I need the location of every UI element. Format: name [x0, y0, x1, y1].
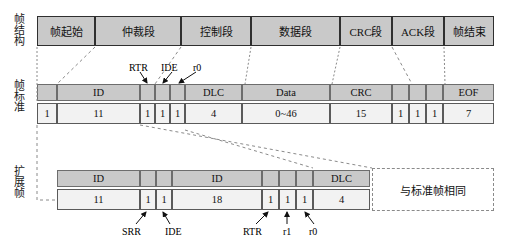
standard-field-band-ide [155, 84, 170, 101]
extended-bits-srr: 1 [140, 189, 156, 210]
leader-rtr-extended [256, 212, 268, 224]
annotation-rtr-standard: RTR [129, 62, 148, 73]
standard-bits-value: 1 [415, 108, 420, 119]
row-label-standard-frame-text: 帧标准 [11, 79, 25, 112]
standard-bits-r0: 1 [170, 103, 185, 124]
extended-field-band-r1 [279, 170, 296, 187]
row-label-standard-frame: 帧标准 [10, 79, 26, 116]
annotation-text: RTR [129, 62, 148, 73]
same-as-standard-frame-note: 与标准帧相同 [372, 168, 494, 211]
annotation-ide-extended: IDE [165, 226, 182, 237]
extended-field-band-id-high: ID [57, 170, 140, 187]
extended-field-band-dlc: DLC [313, 170, 370, 187]
extended-field-label: ID [211, 173, 222, 184]
standard-field-label: ID [93, 87, 104, 98]
extended-bits-r1: 1 [279, 189, 296, 210]
row-label-extended-frame: 扩展帧 [10, 165, 26, 202]
standard-bits-value: 1 [432, 108, 437, 119]
standard-bits-value: 1 [160, 108, 165, 119]
standard-bits-sof: 1 [37, 103, 57, 124]
guide-ack-start [392, 47, 412, 84]
extended-bits-id-low: 18 [172, 189, 262, 210]
leader-srr-extended [136, 212, 146, 224]
standard-bits-value: 4 [211, 108, 216, 119]
standard-bits-id: 11 [57, 103, 140, 124]
structure-segment-label: 帧结束 [453, 23, 486, 39]
standard-bits-dlc: 4 [185, 103, 242, 124]
annotation-text: r0 [309, 226, 317, 237]
annotation-r0-standard: r0 [193, 62, 201, 73]
extended-field-band-r0 [296, 170, 313, 187]
standard-bits-value: 1 [175, 108, 180, 119]
guide-expand-left [37, 125, 57, 200]
structure-segment-data: 数据段 [251, 16, 340, 46]
guide-expand-right [140, 125, 372, 168]
standard-field-band-crc-delim [426, 84, 443, 101]
structure-segment-label: 数据段 [279, 23, 312, 39]
extended-field-band-rtr [262, 170, 279, 187]
structure-segment-control: 控制段 [181, 16, 251, 46]
extended-bits-dlc: 4 [313, 189, 370, 210]
structure-segment-label: 仲裁段 [122, 23, 155, 39]
can-frame-diagram: 帧结构 帧标准 扩展帧 帧起始 仲裁段 控制段 数据段 CRC段 ACK段 帧结… [0, 0, 507, 249]
standard-bits-ack-delim: 1 [409, 103, 426, 124]
standard-bits-data: 0~46 [242, 103, 330, 124]
annotation-r0-extended: r0 [309, 226, 317, 237]
guide-eof-start [444, 47, 445, 84]
structure-segment-arbitration: 仲裁段 [95, 16, 181, 46]
extended-bits-value: 1 [302, 194, 307, 205]
extended-bits-value: 1 [145, 194, 150, 205]
standard-field-label: Data [276, 87, 296, 98]
annotation-text: IDE [161, 62, 178, 73]
extended-field-band-id-low: ID [172, 170, 262, 187]
standard-field-band-data: Data [242, 84, 330, 101]
standard-bits-ide: 1 [155, 103, 170, 124]
annotation-text: r0 [193, 62, 201, 73]
standard-bits-value: 1 [398, 108, 403, 119]
row-label-frame-structure: 帧结构 [10, 13, 26, 50]
annotation-text: RTR [243, 226, 262, 237]
annotation-ide-standard: IDE [161, 62, 178, 73]
extended-bits-value: 11 [93, 194, 103, 205]
annotation-text: r1 [283, 226, 291, 237]
annotation-text: SRR [122, 226, 141, 237]
structure-segment-crc: CRC段 [340, 16, 392, 46]
standard-field-band-ack-slot [392, 84, 409, 101]
leader-ide-extended [163, 212, 170, 224]
structure-segment-ack: ACK段 [392, 16, 444, 46]
standard-field-label: DLC [203, 87, 224, 98]
structure-segment-label: 控制段 [200, 23, 233, 39]
extended-field-band-ide [156, 170, 172, 187]
guide-expand-dlc [185, 130, 313, 168]
standard-field-band-dlc: DLC [185, 84, 242, 101]
structure-segment-label: CRC段 [349, 23, 382, 39]
guide-arbitration-start [57, 47, 95, 84]
extended-bits-rtr: 1 [262, 189, 279, 210]
extended-bits-value: 18 [212, 194, 223, 205]
standard-bits-value: 11 [93, 108, 103, 119]
standard-field-band-sof [37, 84, 57, 101]
standard-field-band-crc: CRC [330, 84, 392, 101]
standard-field-label: CRC [350, 87, 371, 98]
leader-rtr-standard [140, 72, 147, 83]
extended-bits-value: 1 [161, 194, 166, 205]
extended-bits-id-high: 11 [57, 189, 140, 210]
standard-field-band-rtr [140, 84, 155, 101]
standard-field-band-ack-delim [409, 84, 426, 101]
extended-field-label: ID [93, 173, 104, 184]
standard-bits-value: 15 [356, 108, 367, 119]
structure-segment-label: ACK段 [401, 23, 435, 39]
extended-field-label: DLC [331, 173, 352, 184]
extended-bits-ide: 1 [156, 189, 172, 210]
extended-bits-value: 1 [285, 194, 290, 205]
standard-bits-value: 7 [466, 108, 471, 119]
structure-segment-frame-start: 帧起始 [37, 16, 95, 46]
standard-field-band-eof: EOF [443, 84, 494, 101]
annotation-r1-extended: r1 [283, 226, 291, 237]
same-as-standard-frame-text: 与标准帧相同 [400, 182, 466, 198]
leader-r0-standard [179, 72, 196, 83]
standard-bits-crc: 15 [330, 103, 392, 124]
standard-bits-value: 0~46 [275, 108, 296, 119]
guide-crc-start [332, 47, 340, 84]
extended-bits-value: 1 [268, 194, 273, 205]
